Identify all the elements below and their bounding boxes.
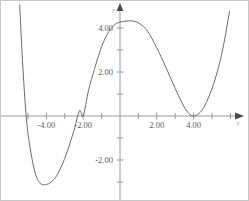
x-axis-label: x (236, 120, 240, 126)
x-axis-group (1, 113, 244, 120)
x-tick-label-pos2: 2.00 (149, 120, 164, 130)
x-axis-tick-labels: -4.00 -2.00 2.00 4.00 (38, 120, 201, 130)
y-tick-label-pos2: 2.00 (98, 67, 113, 77)
y-axis-label: y (111, 7, 115, 13)
y-axis-group (117, 3, 124, 201)
y-axis-tick-labels: 4.00 2.00 -2.00 (95, 23, 113, 165)
x-tick-label-neg2: -2.00 (74, 120, 92, 130)
y-axis-arrowhead (117, 3, 124, 11)
x-axis-arrowhead (235, 113, 244, 120)
graph-plot-area: -4.00 -2.00 2.00 4.00 4.00 2.00 -2.00 x … (0, 0, 249, 201)
function-curve (20, 5, 230, 185)
x-tick-label-pos4: 4.00 (186, 120, 201, 130)
coordinate-plane: -4.00 -2.00 2.00 4.00 4.00 2.00 -2.00 x … (1, 1, 249, 201)
y-tick-label-neg2: -2.00 (95, 155, 113, 165)
x-tick-label-neg4: -4.00 (38, 120, 56, 130)
